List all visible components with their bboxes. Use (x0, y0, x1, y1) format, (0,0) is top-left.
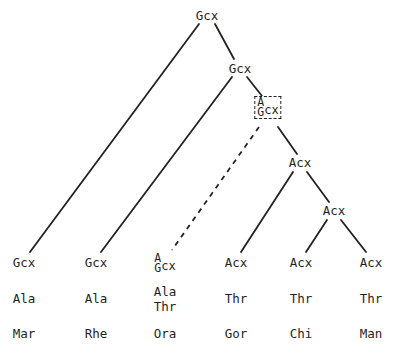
taxon-chi: Chi (290, 327, 313, 341)
tip-ora-state-bottom: G (154, 264, 161, 274)
tip-ora-state-stack: A G (154, 254, 161, 273)
branch-internal-acx-1-to-tip-gor (241, 172, 293, 252)
tip-state-chi: Acx (290, 256, 313, 271)
branch-internal-acx-2-to-tip-man (341, 220, 366, 252)
residue-rhe: Ala (85, 292, 108, 307)
phylogenetic-tree-figure: Gcx Gcx A G cx Acx Acx Gcx Gcx A G cx Ac… (0, 0, 399, 348)
branch-internal-acx-2-to-tip-chi (306, 220, 327, 252)
tree-branches-layer (0, 0, 399, 348)
tip-ora-state-suffix: cx (161, 259, 175, 273)
tip-state-ora: A G cx (154, 254, 175, 273)
branch-root-to-tip-mar (30, 24, 199, 252)
branch-internal-gcx-to-tip-rhe (101, 77, 232, 252)
tip-state-mar: Gcx (13, 256, 36, 271)
branch-ambiguous-node-to-internal-acx-1 (278, 127, 297, 154)
taxon-ora: Ora (154, 327, 177, 341)
residue-mar: Ala (13, 292, 36, 307)
branch-ambiguous-node-to-tip-ora (172, 127, 259, 250)
tip-state-rhe: Gcx (85, 256, 108, 271)
taxon-rhe: Rhe (85, 327, 108, 341)
ambiguous-state-stack: A G (257, 98, 264, 117)
residue-chi: Thr (290, 292, 313, 307)
taxon-mar: Mar (13, 327, 36, 341)
residue-ora: Ala Thr (154, 285, 177, 314)
taxon-gor: Gor (225, 327, 248, 341)
taxon-man: Man (360, 327, 383, 341)
ambiguous-state-suffix: cx (264, 103, 278, 117)
tip-state-gor: Acx (225, 256, 248, 271)
node-internal-acx-1-label: Acx (289, 156, 312, 169)
node-root-label: Gcx (196, 9, 219, 22)
branch-root-to-internal-gcx (215, 24, 234, 59)
branch-internal-acx-1-to-internal-acx-2 (307, 172, 329, 202)
residue-man: Thr (360, 292, 383, 307)
ambiguous-state-bottom: G (257, 108, 264, 118)
tip-state-man: Acx (360, 256, 383, 271)
node-internal-acx-2-label: Acx (323, 204, 346, 217)
node-ambiguous-boxed: A G cx (254, 96, 281, 119)
branch-internal-gcx-to-ambiguous-node (247, 77, 262, 96)
residue-gor: Thr (225, 292, 248, 307)
node-internal-gcx-label: Gcx (229, 62, 252, 75)
